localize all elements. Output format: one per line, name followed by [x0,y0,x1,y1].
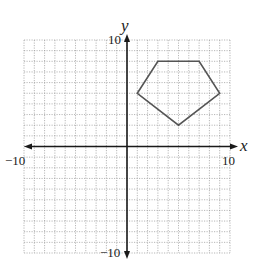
y-axis-arrow-down-icon [124,251,130,259]
x-min-tick-label: −10 [5,153,25,168]
x-axis-label: x [239,136,248,155]
x-axis-arrow-left-icon [24,144,32,150]
y-max-tick-label: 10 [108,32,121,47]
x-max-tick-label: 10 [222,153,235,168]
axes [24,34,238,259]
coordinate-plane: x y −10 10 10 −10 [0,0,259,279]
x-axis-arrow-right-icon [230,144,238,150]
y-min-tick-label: −10 [100,245,120,260]
y-axis-arrow-up-icon [124,34,130,42]
